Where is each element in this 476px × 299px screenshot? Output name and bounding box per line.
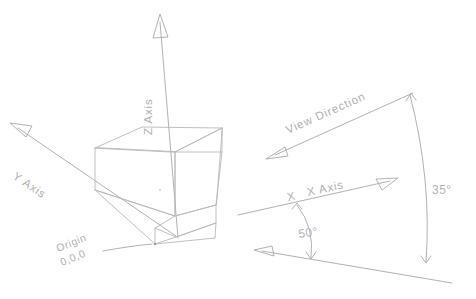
x-axis-marker: X bbox=[286, 189, 297, 203]
view-direction-label: View Direction bbox=[284, 90, 367, 136]
y-axis-line bbox=[18, 128, 176, 236]
solid-base-outline bbox=[95, 190, 216, 237]
solid-ramp-face bbox=[175, 128, 222, 216]
solid-left-face bbox=[95, 148, 175, 216]
origin-vertex-dot bbox=[154, 243, 156, 245]
diagram-canvas: Z Axis Y Axis bbox=[0, 0, 476, 299]
arrow-downleft-icon bbox=[266, 147, 288, 159]
wedge-ramp-solid bbox=[95, 127, 222, 245]
z-axis-label: Z Axis bbox=[142, 98, 154, 135]
angle-50-label: 50° bbox=[297, 224, 318, 241]
technical-diagram: Z Axis Y Axis bbox=[0, 0, 476, 299]
angle-35-group: 35° bbox=[406, 93, 452, 263]
origin-leader-line bbox=[103, 244, 152, 251]
solid-base-left-diagonal bbox=[95, 190, 155, 244]
solid-base-right-edge bbox=[176, 223, 216, 237]
lower-reference-ray-group bbox=[254, 246, 452, 283]
z-axis-group: Z Axis bbox=[142, 14, 178, 238]
lower-reference-ray bbox=[262, 251, 452, 283]
angle-35-arc bbox=[410, 95, 427, 262]
solid-center-dot bbox=[159, 189, 160, 190]
x-axis-group: X Axis X bbox=[238, 178, 398, 215]
solid-top-face bbox=[95, 127, 222, 152]
angle-50-arc-tick-top bbox=[292, 203, 302, 209]
origin-callout: Origin 0,0,0 bbox=[54, 231, 152, 268]
angle-35-label: 35° bbox=[432, 183, 452, 197]
y-axis-group: Y Axis bbox=[10, 123, 176, 236]
y-axis-label: Y Axis bbox=[11, 170, 49, 201]
arrow-upright-icon bbox=[376, 178, 398, 190]
view-direction-group: View Direction bbox=[266, 90, 413, 159]
angle-50-group: 50° bbox=[292, 203, 319, 259]
